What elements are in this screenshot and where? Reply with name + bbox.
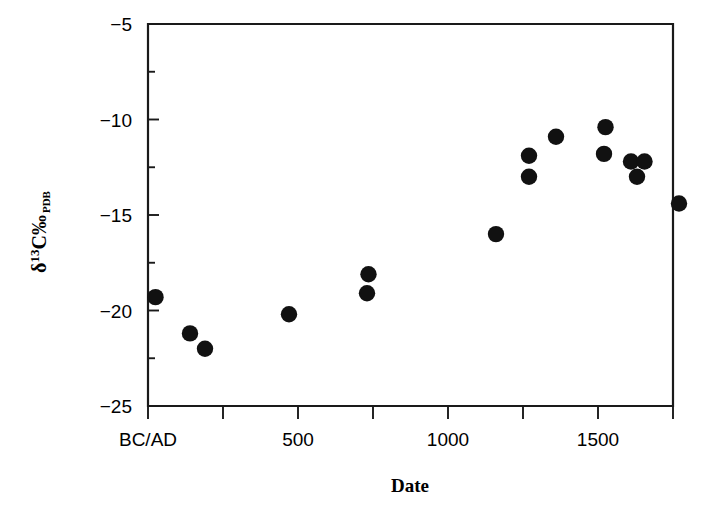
data-point (147, 289, 163, 305)
data-point (281, 306, 297, 322)
y-axis-title-subscript: PDB (40, 190, 52, 213)
x-tick-label: 1000 (427, 429, 469, 450)
data-point (488, 226, 504, 242)
y-tick-label: −10 (100, 110, 132, 131)
data-point (671, 195, 687, 211)
y-tick-label: −15 (100, 205, 132, 226)
y-axis-title-element: C (28, 235, 50, 249)
x-axis-ticks (148, 398, 673, 419)
x-tick-label: 1500 (577, 429, 619, 450)
y-axis-title-delta: δ (28, 263, 50, 273)
y-axis-title: δ13C‰PDB (27, 190, 52, 273)
data-point (359, 285, 375, 301)
y-axis-tick-labels: −5−10−15−20−25 (100, 14, 132, 417)
data-point-group (147, 119, 687, 357)
data-point (629, 169, 645, 185)
data-point (521, 169, 537, 185)
y-tick-label: −20 (100, 301, 132, 322)
data-point (636, 153, 652, 169)
data-point (596, 146, 612, 162)
x-tick-label: BC/AD (119, 429, 177, 450)
x-axis-title: Date (391, 475, 429, 496)
x-axis-tick-labels: BC/AD50010001500 (119, 429, 619, 450)
axes-box (148, 24, 673, 406)
svg-text:δ13C‰PDB: δ13C‰PDB (27, 190, 52, 273)
data-point (548, 128, 564, 144)
data-point (360, 266, 376, 282)
data-point (597, 119, 613, 135)
y-axis-title-permil: ‰ (28, 215, 50, 235)
data-point (182, 325, 198, 341)
data-point (197, 341, 213, 357)
scatter-plot-figure: −5−10−15−20−25 BC/AD50010001500 Date δ13… (0, 0, 702, 525)
y-axis-title-superscript: 13 (27, 249, 42, 263)
y-tick-label: −25 (100, 396, 132, 417)
x-tick-label: 500 (282, 429, 314, 450)
y-tick-label: −5 (110, 14, 132, 35)
data-point (521, 148, 537, 164)
plot-canvas: −5−10−15−20−25 BC/AD50010001500 Date δ13… (0, 0, 702, 525)
axis-frame (148, 24, 673, 406)
y-axis-ticks (148, 24, 159, 406)
